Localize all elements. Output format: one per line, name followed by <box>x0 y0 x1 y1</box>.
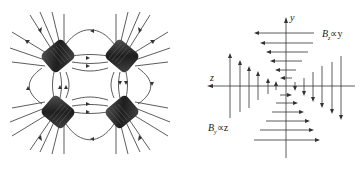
z-axis-arrowhead <box>207 84 213 88</box>
y-axis-arrowhead <box>284 17 288 23</box>
coil-top-right <box>104 38 141 74</box>
coil-bottom-left <box>40 94 77 130</box>
y-axis-label: y <box>290 12 294 23</box>
quadrupole-field-lines-diagram <box>0 0 180 160</box>
z-axis-label: z <box>210 72 214 83</box>
bz-annotation: Bz∝y <box>322 28 342 41</box>
coil-top-left <box>40 38 77 74</box>
field-lines-svg <box>0 0 180 160</box>
field-vectors-svg <box>180 0 360 160</box>
field-vector-diagram: y z Bz∝y By∝z <box>180 0 360 160</box>
by-annotation: By∝z <box>208 122 228 135</box>
coil-bottom-right <box>104 94 141 130</box>
